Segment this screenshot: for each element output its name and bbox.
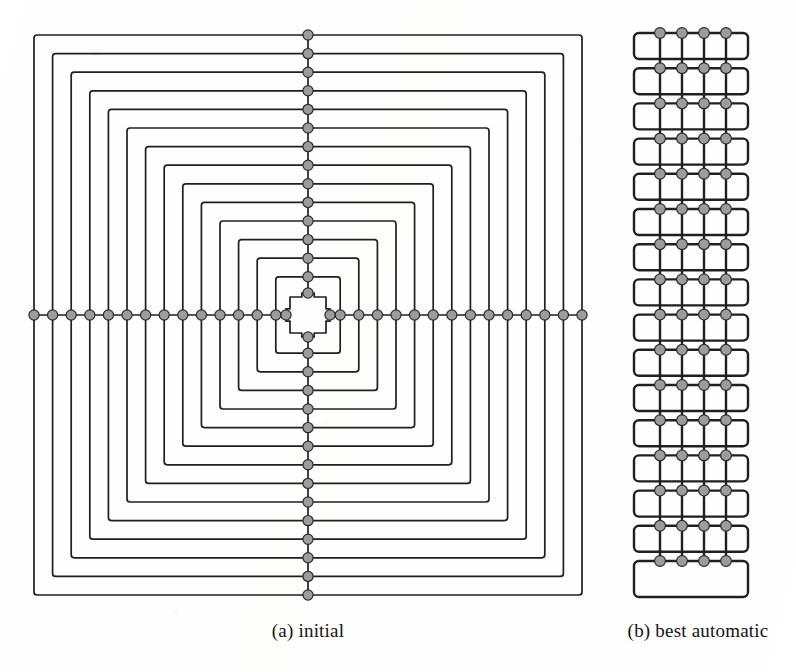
crossing-node: [677, 274, 688, 285]
crossing-node: [655, 520, 666, 531]
track-rect: [634, 103, 748, 129]
ring-node-bottom: [303, 571, 313, 581]
crossing-node: [655, 204, 666, 215]
ring-node-top: [303, 104, 313, 114]
ring-node-top: [303, 123, 313, 133]
crossing-node: [699, 556, 710, 567]
ring-node-top: [303, 86, 313, 96]
crossing-node: [721, 309, 732, 320]
ring-node-left: [234, 310, 244, 320]
ring-node-top: [303, 197, 313, 207]
ring-node-right: [335, 310, 345, 320]
crossing-node: [655, 133, 666, 144]
ring-node-left: [48, 310, 58, 320]
crossing-node: [721, 28, 732, 39]
ring-node-bottom: [303, 590, 313, 600]
ring-node-bottom: [303, 423, 313, 433]
track-rect: [634, 455, 748, 481]
crossing-node: [721, 63, 732, 74]
ring-node-left: [159, 310, 169, 320]
crossing-node: [699, 380, 710, 391]
crossing-node: [655, 239, 666, 250]
crossing-node: [699, 239, 710, 250]
ring-node-right: [577, 310, 587, 320]
crossing-node: [699, 28, 710, 39]
ring-node-left: [29, 310, 39, 320]
crossing-node: [699, 520, 710, 531]
inner-node-left: [281, 310, 291, 320]
track-rect: [634, 315, 748, 341]
ring-node-left: [271, 310, 281, 320]
ring-node-bottom: [303, 553, 313, 563]
panel-a-diagram: [0, 0, 616, 616]
ring-node-right: [558, 310, 568, 320]
crossing-node: [721, 98, 732, 109]
crossing-node: [699, 415, 710, 426]
ring-node-bottom: [303, 404, 313, 414]
crossing-node: [677, 520, 688, 531]
innermost-cell: [286, 293, 330, 337]
crossing-node: [677, 168, 688, 179]
crossing-node: [677, 344, 688, 355]
track-rect: [634, 420, 748, 446]
ring-node-bottom: [303, 534, 313, 544]
panel-a-rings-group: [29, 30, 587, 600]
caption-panel-b: (b) best automatic: [600, 620, 796, 642]
ring-node-top: [303, 160, 313, 170]
ring-node-bottom: [303, 516, 313, 526]
panel-b-diagram: [620, 0, 796, 616]
crossing-node: [699, 168, 710, 179]
ring-node-right: [372, 310, 382, 320]
crossing-node: [655, 168, 666, 179]
crossing-node: [699, 204, 710, 215]
crossing-node: [699, 98, 710, 109]
crossing-node: [699, 344, 710, 355]
inner-node-bottom: [303, 332, 313, 342]
ring-node-right: [354, 310, 364, 320]
crossing-node: [699, 63, 710, 74]
ring-node-top: [303, 235, 313, 245]
crossing-node: [655, 380, 666, 391]
crossing-node: [655, 63, 666, 74]
crossing-node: [699, 450, 710, 461]
crossing-node: [677, 415, 688, 426]
ring-node-left: [85, 310, 95, 320]
track-rect: [634, 350, 748, 376]
crossing-node: [655, 415, 666, 426]
ring-node-top: [303, 216, 313, 226]
crossing-node: [721, 274, 732, 285]
crossing-node: [677, 63, 688, 74]
crossing-node: [721, 380, 732, 391]
crossing-node: [699, 485, 710, 496]
crossing-node: [721, 485, 732, 496]
crossing-node: [677, 28, 688, 39]
track-rect: [634, 526, 748, 552]
ring-node-top: [303, 49, 313, 59]
crossing-node: [721, 168, 732, 179]
track-rect: [634, 561, 748, 597]
crossing-node: [721, 556, 732, 567]
ring-node-top: [303, 30, 313, 40]
ring-node-left: [66, 310, 76, 320]
ring-node-right: [447, 310, 457, 320]
ring-node-left: [141, 310, 151, 320]
crossing-node: [699, 274, 710, 285]
ring-node-right: [428, 310, 438, 320]
crossing-node: [655, 485, 666, 496]
crossing-node: [655, 98, 666, 109]
ring-node-right: [484, 310, 494, 320]
crossing-node: [677, 98, 688, 109]
ring-node-top: [303, 67, 313, 77]
ring-node-right: [410, 310, 420, 320]
crossing-node: [655, 28, 666, 39]
ring-node-bottom: [303, 460, 313, 470]
inner-node-top: [303, 288, 313, 298]
crossing-node: [655, 556, 666, 567]
crossing-node: [677, 204, 688, 215]
crossing-node: [677, 485, 688, 496]
crossing-node: [655, 344, 666, 355]
track-rect: [634, 174, 748, 200]
crossing-node: [721, 450, 732, 461]
ring-node-left: [178, 310, 188, 320]
ring-node-right: [465, 310, 475, 320]
